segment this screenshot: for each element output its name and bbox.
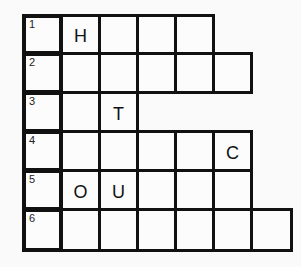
answer-cell[interactable]: T — [98, 91, 139, 133]
cell-letter — [177, 172, 212, 208]
cell-letter — [26, 212, 59, 248]
answer-cell[interactable] — [136, 208, 177, 252]
clue-number-cell: 1 — [22, 14, 63, 55]
answer-cell[interactable] — [60, 52, 101, 94]
cell-letter — [101, 133, 136, 169]
cell-letter: O — [63, 172, 98, 208]
answer-cell[interactable] — [98, 130, 139, 172]
answer-cell[interactable] — [174, 52, 215, 94]
answer-cell[interactable] — [212, 169, 253, 211]
cell-letter — [215, 211, 250, 249]
answer-cell[interactable] — [136, 52, 177, 94]
answer-cell[interactable] — [60, 91, 101, 133]
cell-letter — [177, 55, 212, 91]
cell-letter — [26, 95, 59, 129]
answer-cell[interactable] — [212, 52, 253, 94]
clue-number-cell: 5 — [22, 169, 63, 211]
answer-cell[interactable] — [136, 169, 177, 211]
cell-letter — [26, 18, 59, 51]
answer-cell[interactable] — [174, 130, 215, 172]
clue-number-cell: 2 — [22, 52, 63, 94]
answer-cell[interactable]: H — [60, 14, 101, 55]
answer-cell[interactable] — [136, 14, 177, 55]
answer-cell[interactable] — [98, 208, 139, 252]
answer-cell[interactable] — [174, 169, 215, 211]
cell-letter: C — [215, 133, 250, 169]
cell-letter — [139, 55, 174, 91]
answer-cell[interactable]: C — [212, 130, 253, 172]
clue-number-cell: 3 — [22, 91, 63, 133]
cell-letter — [139, 133, 174, 169]
answer-cell[interactable]: O — [60, 169, 101, 211]
clue-number-cell: 6 — [22, 208, 63, 252]
answer-cell[interactable] — [174, 14, 215, 55]
cell-letter — [253, 211, 290, 249]
cell-letter — [26, 173, 59, 207]
clue-number-cell: 4 — [22, 130, 63, 172]
cell-letter — [63, 55, 98, 91]
cell-letter — [101, 211, 136, 249]
answer-cell[interactable] — [250, 208, 293, 252]
answer-cell[interactable] — [98, 52, 139, 94]
cell-letter — [63, 211, 98, 249]
answer-cell[interactable]: U — [98, 169, 139, 211]
cell-letter — [101, 55, 136, 91]
cell-letter: T — [101, 94, 136, 130]
cell-letter: H — [63, 17, 98, 52]
answer-cell[interactable] — [174, 208, 215, 252]
cell-letter — [139, 211, 174, 249]
cell-letter — [177, 17, 212, 52]
cell-letter — [177, 133, 212, 169]
cell-letter — [101, 17, 136, 52]
cell-letter — [139, 17, 174, 52]
cell-letter — [177, 211, 212, 249]
cell-letter — [63, 133, 98, 169]
answer-cell[interactable] — [136, 130, 177, 172]
answer-cell[interactable] — [60, 130, 101, 172]
cell-letter — [26, 134, 59, 168]
cell-letter — [215, 55, 250, 91]
crossword-grid: 1H23T4C5OU6 — [0, 0, 301, 267]
cell-letter — [139, 172, 174, 208]
cell-letter: U — [101, 172, 136, 208]
answer-cell[interactable] — [98, 14, 139, 55]
cell-letter — [26, 56, 59, 90]
cell-letter — [215, 172, 250, 208]
cell-letter — [63, 94, 98, 130]
answer-cell[interactable] — [212, 208, 253, 252]
answer-cell[interactable] — [60, 208, 101, 252]
